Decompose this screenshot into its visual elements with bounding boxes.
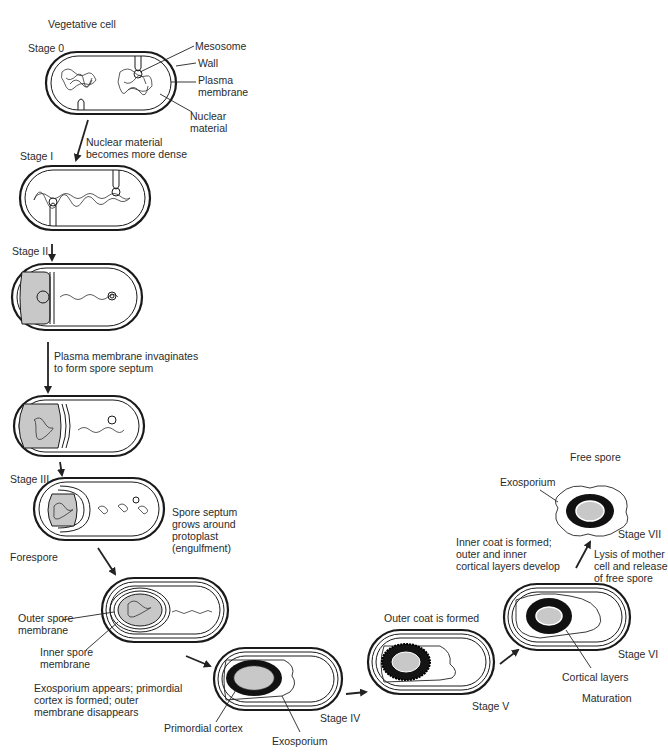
stage1-cell <box>20 166 150 230</box>
callout-wall: Wall <box>198 57 218 69</box>
callout-inner-spore-membrane: Inner spore membrane <box>40 646 93 670</box>
note-lysis: Lysis of mother cell and release of free… <box>594 548 668 584</box>
callout-plasma-membrane: Plasma membrane <box>198 74 248 98</box>
sporulation-diagram: Vegetative cell Stage 0 Mesosome Wall Pl… <box>0 0 668 755</box>
note-septum-form: Plasma membrane invaginates to form spor… <box>54 350 198 374</box>
stage6-label: Stage VI <box>618 648 658 660</box>
note-inner-coat: Inner coat is formed; outer and inner co… <box>456 536 560 572</box>
septum-cell <box>14 396 144 456</box>
stage2-label: Stage II <box>12 245 48 257</box>
note-nuclear-dense: Nuclear material becomes more dense <box>86 136 187 160</box>
stage5-cell <box>368 630 494 694</box>
stage3-cell <box>34 478 164 540</box>
phase-maturation: Maturation <box>582 692 632 704</box>
stage3-label: Stage III <box>10 473 49 485</box>
callout-primordial-cortex: Primordial cortex <box>164 722 243 734</box>
stage2-cell <box>12 264 142 330</box>
stage4-label: Stage IV <box>320 712 360 724</box>
callout-mesosome: Mesosome <box>195 40 246 52</box>
callout-exosporium-stage4: Exosporium <box>272 735 327 747</box>
nuclear-material-icon <box>61 69 152 95</box>
note-exosporium-appears: Exosporium appears; primordial cortex is… <box>34 682 182 718</box>
stage1-label: Stage I <box>20 150 53 162</box>
stage0-label: Stage 0 <box>28 42 64 54</box>
note-engulfment: Spore septum grows around protoplast (en… <box>172 506 237 554</box>
title-vegetative-cell: Vegetative cell <box>48 18 116 30</box>
callout-cortical-layers: Cortical layers <box>562 671 629 683</box>
stage0-cell <box>46 46 196 114</box>
callout-outer-spore-membrane: Outer spore membrane <box>18 612 73 636</box>
label-forespore: Forespore <box>10 551 58 563</box>
stage5-label: Stage V <box>472 700 509 712</box>
forespore-cell <box>62 578 228 650</box>
callout-exosporium-stage7: Exosporium <box>500 476 555 488</box>
stage7-free-spore <box>540 486 628 537</box>
callout-nuclear-material: Nuclear material <box>190 110 227 134</box>
diagram-canvas <box>0 0 668 755</box>
stage7-label: Stage VII <box>618 528 661 540</box>
stage6-cell <box>504 584 630 668</box>
note-outer-coat: Outer coat is formed <box>384 612 479 624</box>
title-free-spore: Free spore <box>570 451 621 463</box>
